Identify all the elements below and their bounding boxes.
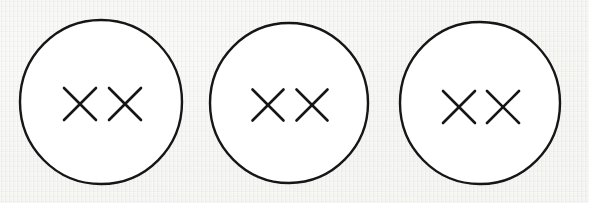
circle-outline-3[interactable] — [400, 22, 560, 184]
circle-group-3[interactable] — [400, 22, 560, 184]
drawing-canvas — [0, 0, 589, 203]
circle-outline-1[interactable] — [20, 20, 182, 184]
circle-outline-2[interactable] — [210, 23, 368, 183]
circle-group-1[interactable] — [20, 20, 182, 184]
circle-group-2[interactable] — [210, 23, 368, 183]
figure-illustration — [0, 0, 589, 203]
